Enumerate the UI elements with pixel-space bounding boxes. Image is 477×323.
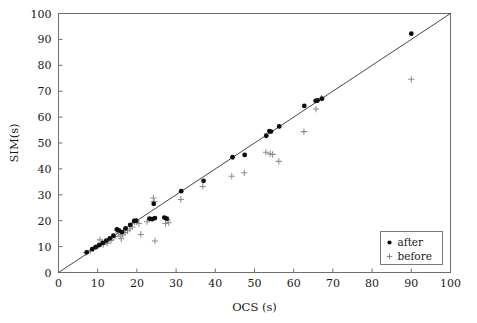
y-tick-label-50: 50 xyxy=(38,137,52,150)
data-point-before xyxy=(229,173,235,179)
chart-legend: afterbefore xyxy=(381,232,443,265)
plot-canvas: 0102030405060708090100 01020304050607080… xyxy=(0,0,477,323)
data-point-after xyxy=(315,98,320,103)
data-point-after xyxy=(84,250,89,255)
data-point-before xyxy=(408,76,414,82)
y-tick-label-10: 10 xyxy=(38,241,52,254)
y-tick-label-0: 0 xyxy=(45,267,52,280)
data-point-before xyxy=(200,183,206,189)
x-tick-label-80: 80 xyxy=(365,277,379,290)
data-point-after xyxy=(128,222,133,227)
data-point-after xyxy=(123,226,128,231)
data-point-before xyxy=(138,231,144,237)
data-point-after xyxy=(111,233,116,238)
x-tick-label-100: 100 xyxy=(440,277,461,290)
x-tick-label-10: 10 xyxy=(91,277,105,290)
y-tick-label-60: 60 xyxy=(38,111,52,124)
data-point-after xyxy=(164,216,169,221)
x-tick-label-70: 70 xyxy=(326,277,340,290)
x-axis-label: OCS (s) xyxy=(232,300,277,314)
x-tick-label-90: 90 xyxy=(404,277,418,290)
x-axis-title: OCS (s) xyxy=(232,300,277,314)
data-point-before xyxy=(241,170,247,176)
data-point-after xyxy=(264,133,269,138)
x-tick-label-30: 30 xyxy=(169,277,183,290)
data-point-before xyxy=(313,106,319,112)
legend-label-after: after xyxy=(398,236,425,248)
x-tick-label-50: 50 xyxy=(248,277,262,290)
data-point-before xyxy=(118,236,124,242)
y-axis-ticks: 0102030405060708090100 xyxy=(31,8,63,280)
data-point-before xyxy=(263,149,269,155)
x-tick-label-40: 40 xyxy=(208,277,222,290)
data-point-after xyxy=(134,218,139,223)
data-point-after xyxy=(320,96,325,101)
legend-label-before: before xyxy=(398,250,432,262)
scatter-plot-figure: 0102030405060708090100 01020304050607080… xyxy=(0,0,477,323)
y-tick-label-90: 90 xyxy=(38,33,52,46)
data-point-after xyxy=(242,153,247,158)
y-tick-label-40: 40 xyxy=(38,163,52,176)
y-tick-label-70: 70 xyxy=(38,85,52,98)
x-tick-label-20: 20 xyxy=(130,277,144,290)
data-point-after xyxy=(151,201,156,206)
data-point-after xyxy=(230,155,235,160)
data-point-after xyxy=(153,216,158,221)
data-point-after xyxy=(409,31,414,36)
y-tick-label-100: 100 xyxy=(31,8,52,21)
data-point-after xyxy=(269,129,274,134)
x-axis-ticks: 0102030405060708090100 xyxy=(55,269,461,290)
data-point-after xyxy=(277,124,282,129)
data-point-before xyxy=(152,238,158,244)
data-point-before xyxy=(178,196,184,202)
data-point-before xyxy=(276,158,282,164)
data-point-before xyxy=(150,195,156,201)
y-axis-title: SIM(s) xyxy=(7,123,21,162)
data-point-after xyxy=(120,230,125,235)
x-tick-label-60: 60 xyxy=(287,277,301,290)
series-before-points xyxy=(83,76,415,256)
data-point-after xyxy=(302,104,307,109)
y-tick-label-30: 30 xyxy=(38,189,52,202)
data-point-before xyxy=(301,129,307,135)
series-after-points xyxy=(84,31,413,254)
y-axis-label: SIM(s) xyxy=(7,123,21,162)
y-tick-label-20: 20 xyxy=(38,215,52,228)
legend-marker-after xyxy=(387,240,391,244)
data-point-after xyxy=(201,178,206,183)
x-tick-label-0: 0 xyxy=(55,277,62,290)
data-point-after xyxy=(179,189,184,194)
y-tick-label-80: 80 xyxy=(38,59,52,72)
